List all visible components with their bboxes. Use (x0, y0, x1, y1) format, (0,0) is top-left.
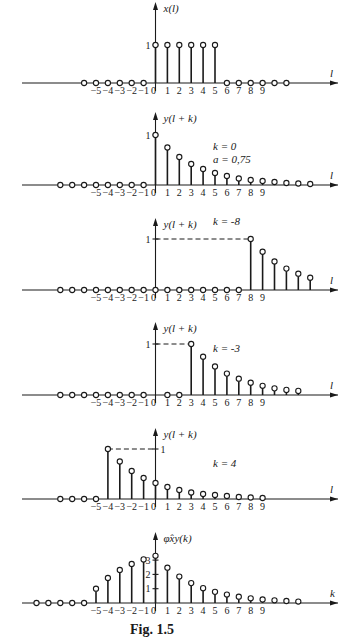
x-tick-label: −4 (103, 292, 114, 303)
x-tick-label: 6 (224, 605, 229, 616)
stem-marker (201, 586, 206, 591)
x-tick-label: 0 (151, 605, 156, 616)
x-tick-label: 9 (260, 501, 265, 512)
stem-marker (260, 495, 265, 500)
stem-marker (58, 392, 63, 397)
x-tick-label: −4 (103, 501, 114, 512)
x-tick-label: −2 (126, 292, 137, 303)
x-tick-label: −5 (91, 187, 102, 198)
y-axis-arrow-icon (153, 218, 158, 226)
stem-marker (272, 598, 277, 603)
stem-marker (189, 287, 194, 292)
x-tick-label: 4 (201, 85, 206, 96)
y-axis-label: y(l + k) (163, 218, 197, 231)
stem-marker (296, 181, 301, 186)
stem-marker (105, 287, 110, 292)
stem-marker (236, 376, 241, 381)
x-tick-label: 2 (177, 187, 182, 198)
x-tick-label: 6 (224, 85, 229, 96)
annotation: a = 0,75 (213, 153, 251, 165)
panel-1: x(l)l−5−4−3−2−101234567891 (22, 2, 338, 96)
stem-marker (105, 392, 110, 397)
stem-marker (105, 182, 110, 187)
stem-marker (224, 287, 229, 292)
y-tick-label: 1 (146, 40, 151, 51)
stem-marker (141, 392, 146, 397)
x-tick-label: 5 (213, 501, 218, 512)
y-axis-label: y(l + k) (163, 428, 197, 441)
x-tick-label: 3 (189, 292, 194, 303)
stem-marker (308, 275, 313, 280)
x-tick-label: 8 (248, 85, 253, 96)
y-tick-label: 1 (146, 339, 151, 350)
y-axis-label: x(l) (163, 2, 180, 15)
x-tick-label: 7 (236, 85, 241, 96)
stem-marker (82, 392, 87, 397)
y-tick-label: 1 (146, 234, 151, 245)
stem-marker (260, 383, 265, 388)
x-axis-arrow-icon (330, 288, 338, 293)
stem-marker (296, 271, 301, 276)
x-tick-label: −1 (138, 292, 149, 303)
x-tick-label: −2 (126, 85, 137, 96)
stem-marker (260, 597, 265, 602)
stem-marker (129, 287, 134, 292)
x-tick-label: 8 (248, 292, 253, 303)
stem-marker (248, 495, 253, 500)
stem-marker (129, 561, 134, 566)
x-axis-label: l (330, 169, 333, 181)
y-axis-label: y(l + k) (163, 112, 197, 125)
stem-marker (201, 354, 206, 359)
stem-marker (105, 575, 110, 580)
stem-marker (224, 493, 229, 498)
x-tick-label: 9 (260, 85, 265, 96)
x-axis-arrow-icon (330, 183, 338, 188)
stem-marker (201, 42, 206, 47)
stem-marker (224, 173, 229, 178)
y-axis-label: y(l + k) (163, 322, 197, 335)
stem-marker (212, 287, 217, 292)
stem-marker (272, 80, 277, 85)
x-tick-label: −5 (91, 605, 102, 616)
x-tick-label: 1 (165, 85, 170, 96)
stem-marker (260, 249, 265, 254)
stem-marker (296, 599, 301, 604)
stem-marker (296, 388, 301, 393)
stem-marker (58, 182, 63, 187)
stem-marker (165, 392, 170, 397)
stem-marker (212, 364, 217, 369)
stem-marker (117, 182, 122, 187)
annotation: k = -3 (213, 342, 240, 354)
stem-marker (82, 182, 87, 187)
stem-marker (308, 181, 313, 186)
x-tick-label: −2 (126, 187, 137, 198)
stem-marker (105, 80, 110, 85)
x-axis-label: l (330, 483, 333, 495)
panel-5: y(l + k)l−5−4−3−2−101234567891k = 4 (22, 428, 338, 512)
stem-marker (153, 287, 158, 292)
stem-marker (153, 42, 158, 47)
x-axis-label: l (330, 67, 333, 79)
stem-marker (260, 80, 265, 85)
stem-marker (260, 178, 265, 183)
x-tick-label: −3 (114, 292, 125, 303)
x-tick-label: −4 (103, 605, 114, 616)
x-tick-label: 9 (260, 292, 265, 303)
x-tick-label: 6 (224, 397, 229, 408)
x-tick-label: 4 (201, 397, 206, 408)
y-tick-label: 1 (146, 583, 151, 594)
stem-marker (272, 259, 277, 264)
x-axis-label: k (330, 587, 336, 599)
panel-3: y(l + k)l−5−4−3−2−101234567891k = -8 (22, 215, 338, 303)
stem-marker (117, 80, 122, 85)
x-tick-label: 7 (236, 397, 241, 408)
stem-marker (165, 565, 170, 570)
stem-marker (93, 586, 98, 591)
x-tick-label: 9 (260, 397, 265, 408)
y-tick-label: 1 (146, 130, 151, 141)
x-tick-label: −1 (138, 501, 149, 512)
x-tick-label: 4 (201, 501, 206, 512)
annotation: k = -8 (213, 215, 240, 227)
stem-marker (248, 596, 253, 601)
annotation: k = 0 (213, 140, 237, 152)
